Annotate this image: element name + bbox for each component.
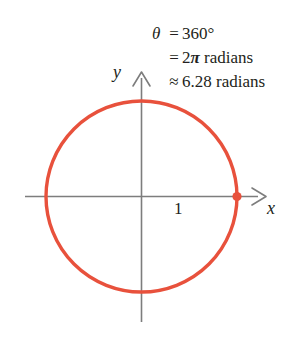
equals-sign-1: = — [166, 22, 182, 46]
degrees-value: 360° — [182, 24, 214, 43]
radians-label-2: radians — [204, 48, 253, 67]
unit-circle-figure: θ=360° =2π radians ≈6.28 radians y x 1 — [0, 0, 307, 339]
x-axis-tick-label-1: 1 — [174, 199, 183, 219]
annotation-line-degrees: θ=360° — [152, 22, 265, 46]
annotation-line-pi-radians: =2π radians — [152, 46, 265, 70]
pi-coefficient: 2 — [182, 48, 191, 67]
angle-annotation: θ=360° =2π radians ≈6.28 radians — [152, 22, 265, 94]
annotation-line-decimal-radians: ≈6.28 radians — [152, 70, 265, 94]
theta-symbol: θ — [152, 22, 166, 46]
x-axis-label: x — [267, 198, 275, 219]
terminal-point-marker — [232, 192, 241, 201]
approx-equals-sign: ≈ — [166, 70, 182, 94]
equals-sign-2: = — [166, 46, 182, 70]
decimal-radians-value: 6.28 radians — [182, 72, 265, 91]
y-axis-label: y — [113, 62, 121, 83]
pi-symbol: π — [191, 48, 200, 67]
